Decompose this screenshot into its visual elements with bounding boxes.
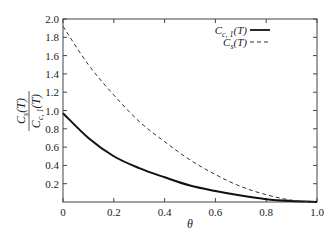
y-tick-label: 0.2	[45, 178, 59, 190]
x-tick-label: 0.8	[259, 206, 273, 218]
plot-frame	[63, 19, 317, 202]
x-tick-label: 0.2	[107, 206, 121, 218]
y-tick-label: 1.8	[45, 31, 59, 43]
series-line-cs	[63, 26, 317, 202]
series-line-cc1	[63, 113, 317, 202]
y-label-numerator: Cs(T)	[14, 98, 30, 124]
y-tick-label: 0.8	[45, 123, 59, 135]
axis-ticks	[63, 19, 317, 202]
x-tick-label: 0.6	[209, 206, 223, 218]
y-tick-label: 2.0	[45, 13, 59, 25]
y-tick-label: 0.6	[45, 141, 59, 153]
x-tick-label: 1.0	[310, 206, 324, 218]
y-tick-label: 1.0	[45, 105, 59, 117]
y-tick-label: 1.6	[45, 50, 59, 62]
x-tick-label: 0	[60, 206, 66, 218]
y-tick-label: 1.4	[45, 68, 59, 80]
x-tick-label: 0.4	[158, 206, 172, 218]
x-axis-label: θ	[187, 217, 193, 231]
y-tick-label: 0.4	[45, 159, 59, 171]
legend-entry-dashed-label: Cs(T)	[223, 36, 247, 51]
legend: Cc, 1(T) Cs(T)	[215, 24, 270, 51]
tick-labels: 00.20.40.60.81.00.20.40.60.81.01.21.41.6…	[45, 13, 324, 218]
y-axis-label: Cs(T) Cc, 1(T)	[14, 91, 45, 131]
chart: 00.20.40.60.81.00.20.40.60.81.01.21.41.6…	[0, 0, 335, 234]
series-lines	[63, 26, 317, 202]
y-label-denominator: Cc, 1(T)	[29, 94, 45, 128]
y-tick-label: 1.2	[45, 86, 59, 98]
